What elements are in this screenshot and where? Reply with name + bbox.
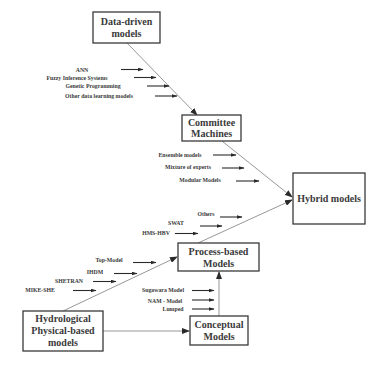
item-label: IHDM — [87, 269, 104, 275]
hybrid-items: Others SWAT HMS-HBV — [142, 211, 242, 236]
node-data-driven-models: Data-driven models — [93, 12, 160, 43]
node-label: models — [112, 28, 142, 39]
node-hybrid-models: Hybrid models — [293, 173, 365, 224]
conceptual-items: Sugawara Model NAM - Model Lumped — [142, 287, 214, 312]
item-label: Others — [197, 211, 215, 217]
item-label: MIKE-SHE — [25, 287, 55, 293]
node-process-based-models: Process-based Models — [178, 243, 259, 271]
edge-data-driven-to-committee — [127, 43, 197, 115]
node-conceptual-models: Conceptual Models — [190, 316, 248, 345]
item-label: SWAT — [168, 220, 184, 226]
node-label: Conceptual — [195, 319, 244, 330]
item-label: SHETRAN — [55, 278, 84, 284]
node-label: Models — [203, 331, 234, 342]
edge-committee-to-hybrid — [222, 141, 292, 197]
committee-items: Ensemble models Mixture of experts Modul… — [159, 152, 260, 183]
model-taxonomy-diagram: Data-driven models Committee Machines Hy… — [0, 0, 383, 377]
node-label: Committee — [188, 117, 236, 128]
node-hydrological-physical-based-models: Hydrological Physical-based models — [23, 311, 103, 351]
node-label: Process-based — [189, 246, 249, 257]
item-label: HMS-HBV — [142, 230, 171, 236]
node-label: models — [48, 337, 78, 348]
item-label: Modular Models — [179, 177, 221, 183]
edge-process-to-hybrid — [198, 200, 292, 243]
node-committee-machines: Committee Machines — [182, 115, 241, 141]
node-label: Physical-based — [31, 325, 95, 336]
item-label: Other data learning models — [65, 93, 134, 99]
data-driven-items: ANN Fuzzy Inference Systems Genetic Prog… — [46, 67, 177, 99]
item-label: NAM - Model — [148, 298, 183, 304]
node-label: Data-driven — [101, 16, 153, 27]
node-label: Hybrid models — [297, 193, 361, 204]
node-label: Machines — [191, 128, 232, 139]
item-label: Lumped — [163, 306, 185, 312]
item-label: Sugawara Model — [142, 287, 184, 293]
physical-based-items: Top-Model IHDM SHETRAN MIKE-SHE — [25, 257, 156, 293]
item-label: ANN — [76, 67, 89, 73]
item-label: Top-Model — [95, 257, 123, 263]
item-label: Ensemble models — [159, 152, 203, 158]
node-label: Hydrological — [35, 313, 91, 324]
item-label: Genetic Programming — [65, 83, 120, 89]
item-label: Fuzzy Inference Systems — [46, 75, 108, 81]
node-label: Models — [203, 258, 234, 269]
item-label: Mixture of experts — [165, 164, 212, 170]
